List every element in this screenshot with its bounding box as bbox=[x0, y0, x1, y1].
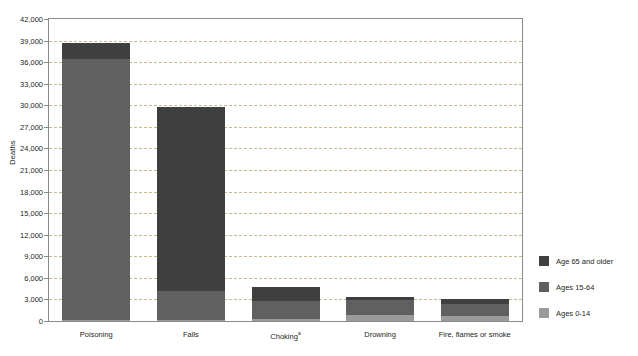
bar-fire-flames-or-smoke[interactable] bbox=[441, 299, 509, 321]
y-axis-tick-mark bbox=[44, 41, 48, 42]
y-axis-tick-label: 24,000 bbox=[0, 144, 43, 153]
gridline bbox=[49, 41, 522, 42]
y-axis-tick-label: 27,000 bbox=[0, 122, 43, 131]
legend-swatch-icon bbox=[538, 307, 550, 319]
bar-poisoning[interactable] bbox=[62, 43, 130, 321]
x-axis-label-fire-flames-or-smoke: Fire, flames or smoke bbox=[439, 330, 511, 339]
y-axis-tick-label: 18,000 bbox=[0, 187, 43, 196]
bar-segment-age-65-and-older[interactable] bbox=[252, 287, 320, 301]
y-axis-tick-mark bbox=[44, 299, 48, 300]
y-axis-tick-mark bbox=[44, 19, 48, 20]
legend-item[interactable]: Ages 0-14 bbox=[538, 300, 638, 326]
bar-drowning[interactable] bbox=[346, 297, 414, 321]
bar-segment-ages-0-14[interactable] bbox=[157, 320, 225, 321]
y-axis-tick-label: 3,000 bbox=[0, 295, 43, 304]
bar-segment-ages-15-64[interactable] bbox=[62, 59, 130, 320]
legend-label: Ages 0-14 bbox=[556, 309, 590, 318]
legend-label: Age 65 and older bbox=[556, 257, 613, 266]
y-axis-tick-mark bbox=[44, 213, 48, 214]
legend-swatch-icon bbox=[538, 281, 550, 293]
legend-label: Ages 15-64 bbox=[556, 283, 594, 292]
y-axis-tick-label: 33,000 bbox=[0, 79, 43, 88]
legend-swatch-icon bbox=[538, 255, 550, 267]
x-axis-label-drowning: Drowning bbox=[364, 330, 396, 339]
y-axis-tick-mark bbox=[44, 148, 48, 149]
y-axis-tick-mark bbox=[44, 256, 48, 257]
plot-area bbox=[48, 18, 523, 322]
y-axis-tick-label: 21,000 bbox=[0, 166, 43, 175]
y-axis-tick-label: 9,000 bbox=[0, 252, 43, 261]
bar-segment-ages-0-14[interactable] bbox=[62, 320, 130, 321]
y-axis-tick-mark bbox=[44, 278, 48, 279]
y-axis-tick-mark bbox=[44, 84, 48, 85]
bar-segment-ages-0-14[interactable] bbox=[441, 316, 509, 321]
y-axis-tick-mark bbox=[44, 170, 48, 171]
y-axis-tick-label: 15,000 bbox=[0, 209, 43, 218]
y-axis-tick-mark bbox=[44, 127, 48, 128]
bar-segment-ages-15-64[interactable] bbox=[157, 291, 225, 320]
legend-item[interactable]: Ages 15-64 bbox=[538, 274, 638, 300]
y-axis-tick-label: 42,000 bbox=[0, 15, 43, 24]
y-axis-tick-mark bbox=[44, 235, 48, 236]
x-axis-label-falls: Falls bbox=[183, 330, 199, 339]
y-axis-tick-label: 39,000 bbox=[0, 36, 43, 45]
y-axis-tick-label: 0 bbox=[0, 317, 43, 326]
bar-segment-age-65-and-older[interactable] bbox=[62, 43, 130, 60]
y-axis-tick-mark bbox=[44, 321, 48, 322]
bar-choking[interactable] bbox=[252, 287, 320, 322]
bar-segment-ages-15-64[interactable] bbox=[346, 300, 414, 314]
bar-segment-age-65-and-older[interactable] bbox=[157, 107, 225, 290]
y-axis-tick-label: 6,000 bbox=[0, 273, 43, 282]
bar-segment-ages-15-64[interactable] bbox=[252, 301, 320, 319]
y-axis-tick-mark bbox=[44, 62, 48, 63]
x-axis-label-choking: Chokinga bbox=[270, 330, 300, 341]
bar-falls[interactable] bbox=[157, 107, 225, 321]
bar-segment-ages-0-14[interactable] bbox=[252, 319, 320, 321]
y-axis-tick-label: 30,000 bbox=[0, 101, 43, 110]
x-axis-label-poisoning: Poisoning bbox=[80, 330, 113, 339]
chart-legend: Age 65 and olderAges 15-64Ages 0-14 bbox=[538, 248, 638, 326]
y-axis-tick-mark bbox=[44, 192, 48, 193]
stacked-bar-chart: Deaths 03,0006,0009,00012,00015,00018,00… bbox=[0, 0, 638, 356]
bar-segment-ages-15-64[interactable] bbox=[441, 304, 509, 316]
y-axis-tick-label: 12,000 bbox=[0, 230, 43, 239]
bar-segment-ages-0-14[interactable] bbox=[346, 315, 414, 321]
y-axis-tick-mark bbox=[44, 105, 48, 106]
y-axis-tick-label: 36,000 bbox=[0, 58, 43, 67]
legend-item[interactable]: Age 65 and older bbox=[538, 248, 638, 274]
